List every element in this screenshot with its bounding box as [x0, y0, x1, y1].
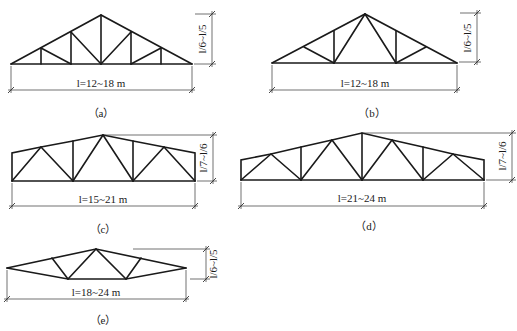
- caption-c: （c）: [90, 223, 117, 235]
- truss-e: l=18~24 m l/6~l/5 （e）: [4, 246, 219, 326]
- span-label-e: l=18~24 m: [72, 286, 121, 298]
- height-label-e: l/6~l/5: [207, 249, 219, 279]
- truss-c: l=15~21 m l/7~l/6 （c）: [9, 132, 217, 235]
- truss-d: l=21~24 m l/7~l/6 （d）: [238, 130, 516, 232]
- caption-d: （d）: [355, 220, 383, 232]
- span-label-d: l=21~24 m: [338, 192, 387, 204]
- height-label-a: l/6~l/5: [196, 24, 208, 54]
- height-label-d: l/7~l/6: [496, 141, 508, 171]
- caption-e: （e）: [90, 314, 117, 326]
- height-label-c: l/7~l/6: [197, 143, 209, 173]
- truss-a: l=12~18 m l/6~l/5 （a）: [8, 11, 216, 119]
- caption-a: （a）: [88, 107, 115, 119]
- caption-b: （b）: [358, 107, 386, 119]
- truss-diagrams: l=12~18 m l/6~l/5 （a） l=12~18 m l/6~l/5: [0, 0, 517, 331]
- span-label-a: l=12~18 m: [77, 77, 126, 89]
- truss-b: l=12~18 m l/6~l/5 （b）: [269, 10, 481, 119]
- span-label-b: l=12~18 m: [341, 77, 390, 89]
- height-label-b: l/6~l/5: [461, 23, 473, 53]
- span-label-c: l=15~21 m: [79, 193, 128, 205]
